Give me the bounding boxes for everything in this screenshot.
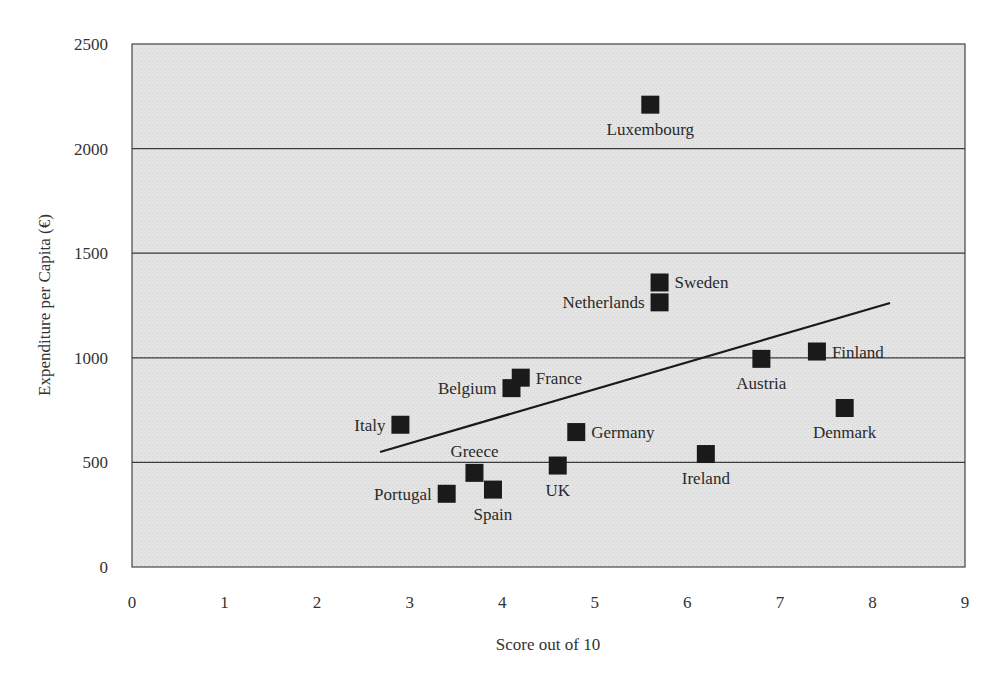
square-marker-icon: [836, 399, 854, 417]
data-point: France: [512, 369, 582, 388]
point-label: France: [536, 369, 582, 388]
x-tick-label: 0: [128, 593, 137, 612]
point-label: UK: [545, 481, 570, 500]
point-label: Denmark: [813, 423, 877, 442]
x-axis-ticks: 0123456789: [128, 593, 970, 612]
data-point: Belgium: [438, 379, 521, 398]
square-marker-icon: [641, 96, 659, 114]
y-tick-label: 2500: [74, 35, 108, 54]
x-tick-label: 8: [868, 593, 877, 612]
square-marker-icon: [502, 379, 520, 397]
square-marker-icon: [391, 416, 409, 434]
point-label: Germany: [591, 423, 655, 442]
point-label: Ireland: [682, 469, 731, 488]
x-axis-title: Score out of 10: [496, 635, 600, 654]
square-marker-icon: [752, 350, 770, 368]
y-tick-label: 1000: [74, 349, 108, 368]
point-label: Austria: [736, 374, 787, 393]
point-label: Greece: [450, 442, 498, 461]
point-label: Luxembourg: [607, 120, 695, 139]
point-label: Finland: [832, 343, 884, 362]
square-marker-icon: [697, 445, 715, 463]
point-label: Spain: [474, 505, 513, 524]
y-tick-label: 2000: [74, 140, 108, 159]
point-label: Netherlands: [562, 293, 644, 312]
square-marker-icon: [484, 481, 502, 499]
square-marker-icon: [808, 343, 826, 361]
x-tick-label: 1: [220, 593, 229, 612]
point-label: Portugal: [374, 485, 432, 504]
x-tick-label: 6: [683, 593, 692, 612]
square-marker-icon: [438, 485, 456, 503]
y-axis-ticks: 05001000150020002500: [74, 35, 108, 577]
data-point: Italy: [354, 416, 409, 435]
data-point: Finland: [808, 343, 884, 362]
x-tick-label: 9: [961, 593, 970, 612]
x-tick-label: 4: [498, 593, 507, 612]
data-point: Portugal: [374, 485, 456, 504]
data-point: Sweden: [651, 273, 729, 292]
square-marker-icon: [651, 293, 669, 311]
data-point: Germany: [567, 423, 655, 442]
x-tick-label: 5: [591, 593, 600, 612]
y-axis-title: Expenditure per Capita (€): [35, 214, 54, 396]
x-tick-label: 3: [405, 593, 414, 612]
square-marker-icon: [651, 273, 669, 291]
scatter-chart: 05001000150020002500 0123456789 Luxembou…: [0, 0, 1003, 683]
x-tick-label: 7: [776, 593, 785, 612]
data-point: Netherlands: [562, 293, 668, 312]
y-tick-label: 1500: [74, 244, 108, 263]
square-marker-icon: [567, 423, 585, 441]
point-label: Belgium: [438, 379, 497, 398]
square-marker-icon: [465, 464, 483, 482]
y-tick-label: 0: [100, 558, 109, 577]
point-label: Sweden: [675, 273, 729, 292]
y-tick-label: 500: [83, 453, 109, 472]
point-label: Italy: [354, 416, 386, 435]
x-tick-label: 2: [313, 593, 322, 612]
square-marker-icon: [549, 457, 567, 475]
